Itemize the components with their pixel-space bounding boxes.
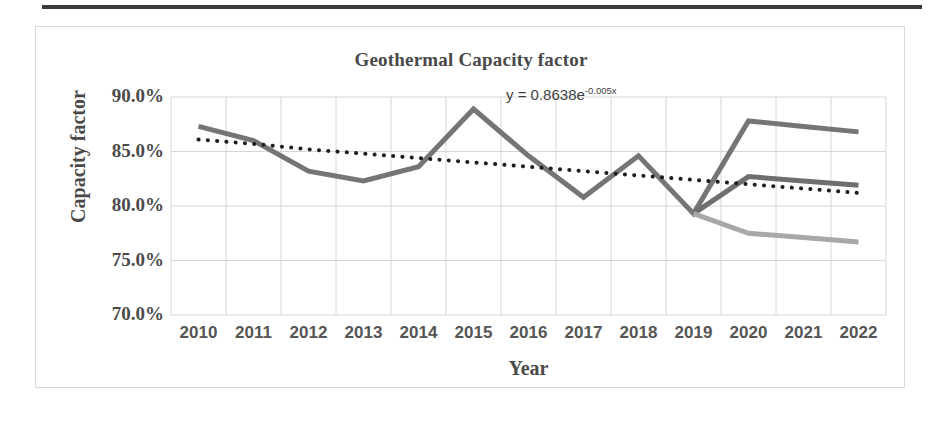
y-tick-label: 75.0%	[64, 249, 164, 271]
x-tick-label: 2017	[556, 323, 611, 349]
x-tick-label: 2013	[336, 323, 391, 349]
x-tick-label: 2018	[611, 323, 666, 349]
chart-container: Geothermal Capacity factor Capacity fact…	[35, 26, 905, 388]
series-line-historical-and-high-case	[199, 109, 859, 214]
x-tick-label: 2010	[171, 323, 226, 349]
y-tick-label: 85.0%	[64, 140, 164, 162]
x-tick-label: 2012	[281, 323, 336, 349]
gridlines	[171, 97, 886, 315]
x-tick-label: 2011	[226, 323, 281, 349]
x-tick-label: 2014	[391, 323, 446, 349]
data-series-layer	[199, 109, 859, 242]
plot-area	[171, 97, 886, 315]
x-tick-label: 2020	[721, 323, 776, 349]
x-tick-label: 2019	[666, 323, 721, 349]
trendline-equation-main: y = 0.8638e	[506, 86, 585, 103]
y-tick-label: 90.0%	[64, 85, 164, 107]
x-tick-label: 2015	[446, 323, 501, 349]
x-tick-label: 2016	[501, 323, 556, 349]
plot-svg	[171, 97, 886, 315]
x-axis-title: Year	[171, 357, 886, 380]
trendline-equation-label: y = 0.8638e-0.005x	[506, 85, 617, 103]
trendline-equation-exponent: -0.005x	[585, 85, 617, 96]
chart-title: Geothermal Capacity factor	[36, 49, 906, 71]
page-horizontal-rule	[42, 5, 922, 9]
x-axis-tick-labels: 2010 2011 2012 2013 2014 2015 2016 2017 …	[171, 323, 886, 349]
x-tick-label: 2021	[776, 323, 831, 349]
x-tick-label: 2022	[831, 323, 886, 349]
y-tick-label: 70.0%	[64, 303, 164, 325]
y-axis-tick-labels: 90.0% 85.0% 80.0% 75.0% 70.0%	[56, 97, 164, 315]
y-tick-label: 80.0%	[64, 194, 164, 216]
